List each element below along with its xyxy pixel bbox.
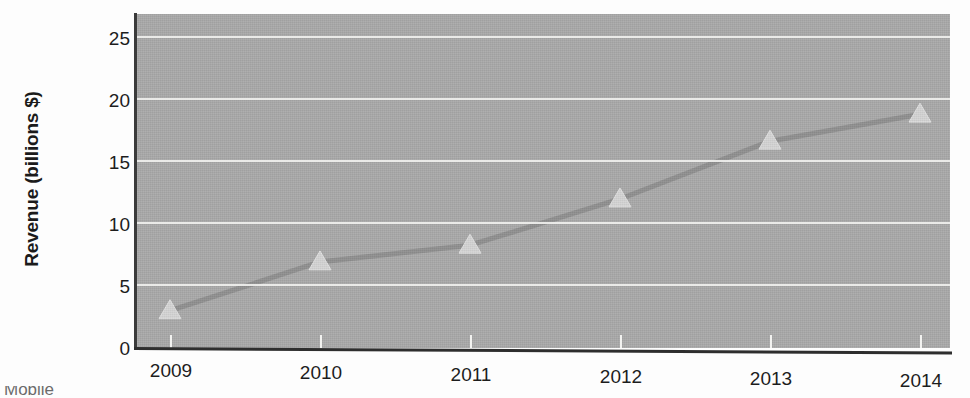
x-tick-label-2009: 2009 xyxy=(150,360,192,382)
x-tick-label-2011: 2011 xyxy=(451,364,492,386)
x-tick-label-2012: 2012 xyxy=(600,366,642,388)
page-caption-text: Mobile xyxy=(4,386,964,398)
x-tick-label-2010: 2010 xyxy=(300,362,342,384)
page-caption: Mobile xyxy=(4,386,964,398)
chart-figure: Revenue (billions $) 25 20 15 10 5 0 xyxy=(0,0,970,398)
x-axis-tick-labels: 2009 2010 2011 2012 2013 2014 xyxy=(0,0,970,398)
